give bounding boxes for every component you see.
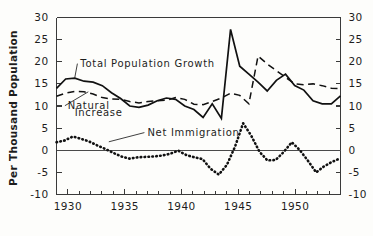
x-tick-label: 1950	[281, 200, 309, 212]
annotation-leader-line	[109, 133, 145, 142]
y-axis-right-ticks	[336, 18, 341, 195]
x-tick-label: 1935	[110, 200, 138, 212]
x-tick-label: 1945	[224, 200, 252, 212]
series-annotations-group: Total Population GrowthNaturalIncreaseNe…	[65, 58, 240, 142]
x-axis-ticks	[57, 189, 341, 195]
y-axis-title: Per Thousand Population	[7, 30, 19, 186]
x-tick-label: 1930	[54, 200, 82, 212]
y-tick-label-left: 0	[41, 144, 48, 156]
y-tick-label-right: -5	[349, 166, 360, 178]
y-tick-label-left: 10	[34, 100, 48, 112]
y-tick-label-left: 5	[41, 122, 48, 134]
line-chart-population-growth: Per Thousand Population 302520151050-5-1…	[0, 0, 373, 236]
y-axis-left-labels: 302520151050-5-10	[30, 11, 48, 200]
y-tick-label-left: 15	[34, 77, 48, 89]
annotation-leader-line	[75, 64, 78, 79]
y-axis-title-group: Per Thousand Population	[7, 30, 19, 186]
y-tick-label-right: 25	[349, 33, 363, 45]
series-annotation-label: Increase	[75, 107, 123, 118]
y-tick-label-right: 15	[349, 77, 363, 89]
x-axis-labels: 19301935194019451950	[54, 200, 310, 212]
y-tick-label-right: 5	[349, 122, 356, 134]
y-tick-label-right: 10	[349, 100, 363, 112]
y-tick-label-right: 20	[349, 55, 363, 67]
y-tick-label-right: 0	[349, 144, 356, 156]
x-tick-label: 1940	[167, 200, 195, 212]
figure-container: Per Thousand Population 302520151050-5-1…	[0, 0, 373, 236]
series-annotation-label: Net Immigration	[147, 127, 239, 138]
y-tick-label-left: -5	[37, 166, 48, 178]
y-tick-label-left: 30	[34, 11, 48, 23]
y-axis-right-labels: 302520151050-5-10	[349, 11, 367, 200]
y-axis-left-ticks	[57, 18, 62, 195]
series-annotation-label: Total Population Growth	[79, 58, 215, 69]
y-tick-label-right: -10	[349, 188, 367, 200]
y-tick-label-left: 20	[34, 55, 48, 67]
y-tick-label-left: -10	[30, 188, 48, 200]
y-tick-label-left: 25	[34, 33, 48, 45]
y-tick-label-right: 30	[349, 11, 363, 23]
